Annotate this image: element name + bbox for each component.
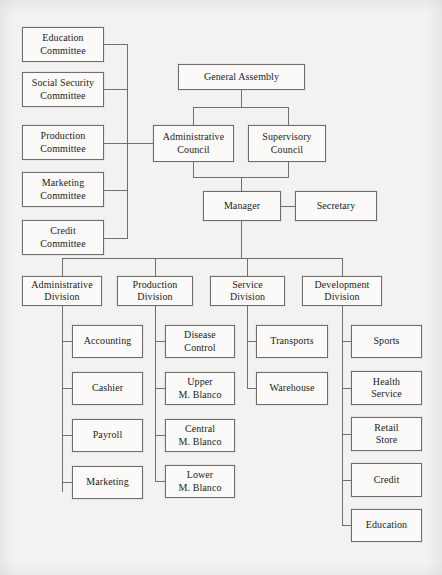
node-manager-label: Manager: [224, 200, 260, 212]
connector-development-division-bus: [342, 305, 343, 525]
node-education-label: Education: [366, 519, 407, 531]
node-lower-m-blanco-label: Lower M. Blanco: [178, 469, 221, 493]
node-general-assembly[interactable]: General Assembly: [178, 64, 305, 90]
node-disease-control[interactable]: Disease Control: [165, 325, 235, 358]
connector-administrative-division-bus: [62, 305, 63, 492]
connector-health-service-stub: [342, 388, 351, 389]
node-development-division[interactable]: Development Division: [302, 276, 382, 306]
node-credit-committee[interactable]: Credit Committee: [22, 220, 104, 255]
connector-retail-store-stub: [342, 434, 351, 435]
node-marketing-label: Marketing: [86, 476, 129, 488]
node-secretary[interactable]: Secretary: [295, 191, 377, 221]
node-accounting-label: Accounting: [84, 335, 132, 347]
connector-bar-to-production-division: [155, 258, 156, 276]
connector-warehouse-stub: [247, 388, 256, 389]
node-social-security-committee[interactable]: Social Security Committee: [22, 72, 104, 107]
node-retail-store[interactable]: Retail Store: [351, 417, 422, 451]
node-credit[interactable]: Credit: [351, 463, 422, 497]
connector-lower-m-blanco-stub: [155, 481, 165, 482]
node-upper-m-blanco-label: Upper M. Blanco: [178, 376, 221, 400]
connector-assembly-to-admin-council: [193, 107, 194, 125]
connector-councils-to-manager: [241, 177, 242, 191]
node-service-division[interactable]: Service Division: [210, 276, 285, 306]
node-service-division-label: Service Division: [230, 279, 265, 303]
node-credit-committee-label: Credit Committee: [40, 225, 85, 249]
node-central-m-blanco-label: Central M. Blanco: [178, 423, 221, 447]
node-health-service[interactable]: Health Service: [351, 371, 422, 405]
connector-committee-bus: [127, 44, 128, 238]
connector-assembly-down: [241, 90, 242, 107]
connector-assembly-bar: [193, 107, 289, 108]
connector-production-division-bus: [155, 305, 156, 482]
node-central-m-blanco[interactable]: Central M. Blanco: [165, 419, 235, 452]
node-cashier-label: Cashier: [92, 382, 123, 394]
connector-production-committee-to-admin-council: [104, 143, 153, 144]
node-social-security-committee-label: Social Security Committee: [32, 77, 94, 101]
connector-sports-stub: [342, 341, 351, 342]
node-production-committee[interactable]: Production Committee: [22, 125, 104, 160]
connector-bar-to-administrative-division: [62, 258, 63, 276]
node-accounting[interactable]: Accounting: [72, 325, 143, 358]
node-marketing-committee-label: Marketing Committee: [40, 177, 85, 201]
node-payroll-label: Payroll: [93, 429, 123, 441]
node-production-division-label: Production Division: [133, 279, 178, 303]
node-retail-store-label: Retail Store: [374, 422, 398, 446]
node-supervisory-council[interactable]: Supervisory Council: [248, 125, 326, 162]
connector-payroll-stub: [62, 435, 72, 436]
connector-manager-secretary: [281, 206, 295, 207]
connector-marketing-committee-stub: [104, 190, 128, 191]
node-production-committee-label: Production Committee: [40, 130, 85, 154]
connector-upper-m-blanco-stub: [155, 388, 165, 389]
connector-bar-to-service-division: [247, 258, 248, 276]
connector-central-m-blanco-stub: [155, 435, 165, 436]
connector-marketing-stub: [62, 482, 72, 483]
node-cashier[interactable]: Cashier: [72, 372, 143, 405]
node-administrative-division-label: Administrative Division: [31, 279, 92, 303]
node-credit-label: Credit: [374, 474, 400, 486]
node-warehouse-label: Warehouse: [269, 382, 314, 394]
connector-social-security-committee-stub: [104, 89, 128, 90]
node-administrative-council-label: Administrative Council: [163, 131, 224, 155]
connector-accounting-stub: [62, 341, 72, 342]
node-payroll[interactable]: Payroll: [72, 419, 143, 452]
connector-cashier-stub: [62, 388, 72, 389]
node-education-committee[interactable]: Education Committee: [22, 27, 104, 62]
node-supervisory-council-label: Supervisory Council: [262, 131, 311, 155]
node-manager[interactable]: Manager: [203, 191, 281, 221]
node-upper-m-blanco[interactable]: Upper M. Blanco: [165, 372, 235, 405]
node-education-committee-label: Education Committee: [40, 32, 85, 56]
node-transports[interactable]: Transports: [256, 325, 328, 358]
org-chart-canvas: Education Committee Social Security Comm…: [0, 0, 442, 575]
connector-education-stub: [342, 525, 351, 526]
node-education[interactable]: Education: [351, 509, 422, 542]
connector-disease-control-stub: [155, 341, 165, 342]
node-development-division-label: Development Division: [315, 279, 370, 303]
node-administrative-division[interactable]: Administrative Division: [22, 276, 102, 306]
node-sports[interactable]: Sports: [351, 325, 422, 358]
node-warehouse[interactable]: Warehouse: [256, 372, 328, 405]
connector-divisions-bar: [62, 258, 342, 259]
node-marketing[interactable]: Marketing: [72, 466, 143, 499]
connector-bar-to-development-division: [342, 258, 343, 276]
connector-admin-council-down: [193, 162, 194, 177]
connector-assembly-to-supervisory-council: [288, 107, 289, 125]
connector-manager-down: [241, 221, 242, 258]
connector-service-division-bus: [247, 305, 248, 389]
node-sports-label: Sports: [373, 335, 399, 347]
connector-credit-committee-stub: [104, 238, 128, 239]
node-transports-label: Transports: [270, 335, 313, 347]
node-health-service-label: Health Service: [371, 376, 402, 400]
connector-supervisory-council-down: [288, 162, 289, 177]
node-production-division[interactable]: Production Division: [117, 276, 193, 306]
node-general-assembly-label: General Assembly: [204, 71, 279, 83]
connector-credit-stub: [342, 480, 351, 481]
connector-education-committee-stub: [104, 44, 128, 45]
connector-transports-stub: [247, 341, 256, 342]
node-lower-m-blanco[interactable]: Lower M. Blanco: [165, 465, 235, 498]
node-marketing-committee[interactable]: Marketing Committee: [22, 172, 104, 207]
node-disease-control-label: Disease Control: [184, 329, 216, 353]
node-administrative-council[interactable]: Administrative Council: [153, 125, 234, 162]
node-secretary-label: Secretary: [317, 200, 356, 212]
